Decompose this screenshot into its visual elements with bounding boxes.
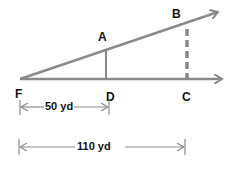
label-A: A bbox=[98, 30, 107, 44]
label-C: C bbox=[182, 90, 191, 104]
dimension-FD-label: 50 yd bbox=[45, 100, 73, 112]
similar-triangles-diagram: F A B D C 50 yd 110 yd bbox=[0, 0, 237, 170]
label-F: F bbox=[15, 87, 22, 101]
label-D: D bbox=[106, 90, 115, 104]
dimension-FC-label: 110 yd bbox=[77, 140, 111, 152]
label-B: B bbox=[172, 7, 181, 21]
dimension-FC: 110 yd bbox=[19, 139, 185, 155]
dimension-FD: 50 yd bbox=[20, 100, 109, 115]
